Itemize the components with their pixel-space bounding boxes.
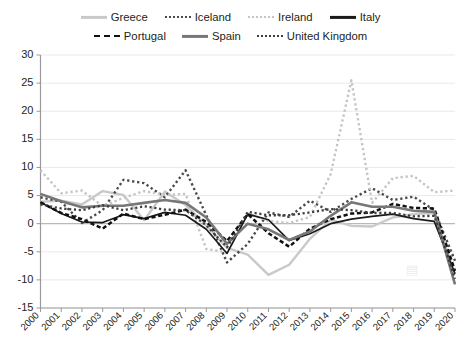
x-axis-tick-label: 2009 xyxy=(205,310,228,333)
x-axis-tick-label: 2019 xyxy=(412,310,435,333)
plot-area: 302520151050-5-10-1520002001200220032004… xyxy=(0,0,461,344)
y-axis-tick-label: -10 xyxy=(18,273,34,285)
y-axis-tick-label: 20 xyxy=(21,104,33,116)
x-axis-tick-label: 2020 xyxy=(433,310,456,333)
x-axis-tick-label: 2000 xyxy=(18,310,41,333)
x-axis-tick-label: 2018 xyxy=(391,310,414,333)
y-axis-tick-label: 0 xyxy=(27,217,33,229)
y-axis-tick-label: 10 xyxy=(21,160,33,172)
x-axis-tick-label: 2015 xyxy=(329,310,352,333)
x-axis-tick-label: 2001 xyxy=(39,310,62,333)
x-axis-tick-label: 2017 xyxy=(370,310,393,333)
x-axis-tick-label: 2007 xyxy=(163,310,186,333)
x-axis-tick-label: 2016 xyxy=(350,310,373,333)
x-axis-tick-label: 2013 xyxy=(287,310,310,333)
x-axis-tick-label: 2012 xyxy=(267,310,290,333)
x-axis-tick-label: 2011 xyxy=(247,310,269,332)
y-axis-tick-label: 25 xyxy=(21,76,33,88)
y-axis-tick-label: -5 xyxy=(24,245,34,257)
x-axis-tick-label: 2006 xyxy=(142,310,165,333)
x-axis-tick-label: 2002 xyxy=(59,310,82,333)
x-axis-tick-label: 2014 xyxy=(308,309,331,332)
x-axis-tick-label: 2008 xyxy=(184,310,207,333)
chart-figure: GreeceIcelandIrelandItaly PortugalSpainU… xyxy=(0,0,461,344)
watermark-artifact: ▤ xyxy=(406,262,422,280)
line-chart: 302520151050-5-10-1520002001200220032004… xyxy=(0,0,461,344)
x-axis-tick-label: 2010 xyxy=(225,310,248,333)
y-axis-tick-label: 5 xyxy=(27,188,33,200)
series-line-ireland xyxy=(41,80,456,252)
y-axis-tick-label: 30 xyxy=(21,48,33,60)
x-axis-tick-label: 2004 xyxy=(101,309,124,332)
x-axis-tick-label: 2003 xyxy=(80,310,103,333)
series-line-spain xyxy=(41,194,456,285)
x-axis-tick-label: 2005 xyxy=(122,310,145,333)
y-axis-tick-label: 15 xyxy=(21,132,33,144)
